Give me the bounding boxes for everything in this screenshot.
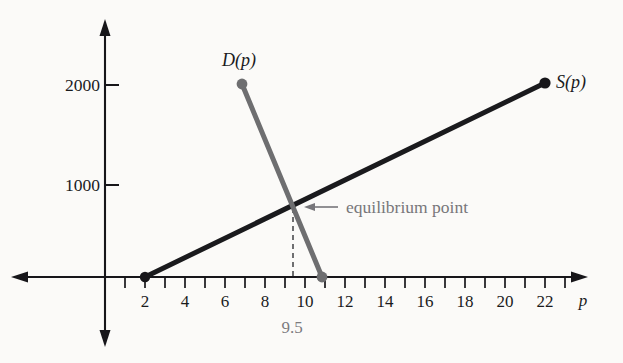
equilibrium-callout xyxy=(304,203,338,211)
supply-curve-line xyxy=(145,83,545,277)
x-tick-label-8: 8 xyxy=(261,292,270,311)
y-axis-arrow-up xyxy=(100,19,111,36)
demand-end-marker xyxy=(317,272,328,283)
demand-start-marker xyxy=(237,79,248,90)
demand-curve-label: D(p) xyxy=(221,50,256,71)
supply-curve-label: S(p) xyxy=(556,72,586,93)
supply-end-marker xyxy=(539,77,550,88)
x-tick-label-4: 4 xyxy=(181,292,190,311)
y-axis-ticks xyxy=(105,85,119,185)
x-tick-label-10: 10 xyxy=(297,292,314,311)
y-tick-label-2000: 2000 xyxy=(65,75,100,95)
chart-canvas: 2000 1000 246810121416182022 p S(p) D(p)… xyxy=(0,0,623,363)
x-axis-tick-labels: 246810121416182022 xyxy=(141,292,554,311)
equilibrium-arrow-head xyxy=(304,203,315,211)
x-tick-label-2: 2 xyxy=(141,292,150,311)
x-axis-arrow-right xyxy=(571,272,588,283)
y-tick-label-1000: 1000 xyxy=(65,175,100,195)
y-axis-arrow-down xyxy=(100,330,111,347)
x-tick-label-16: 16 xyxy=(417,292,434,311)
x-tick-label-6: 6 xyxy=(221,292,230,311)
x-axis-variable-label: p xyxy=(578,291,588,310)
supply-start-marker xyxy=(140,272,150,282)
x-tick-label-14: 14 xyxy=(377,292,395,311)
demand-curve-group xyxy=(237,79,328,283)
x-tick-label-22: 22 xyxy=(537,292,554,311)
x-tick-label-20: 20 xyxy=(497,292,514,311)
supply-demand-chart: 2000 1000 246810121416182022 p S(p) D(p)… xyxy=(0,0,623,363)
demand-curve-line xyxy=(242,84,322,277)
x-axis-arrow-left xyxy=(11,272,28,283)
equilibrium-price-label: 9.5 xyxy=(281,318,302,337)
supply-curve-group xyxy=(140,77,551,282)
x-axis-ticks xyxy=(125,277,565,288)
equilibrium-annotation-text: equilibrium point xyxy=(346,197,468,217)
x-tick-label-12: 12 xyxy=(337,292,354,311)
x-tick-label-18: 18 xyxy=(457,292,474,311)
